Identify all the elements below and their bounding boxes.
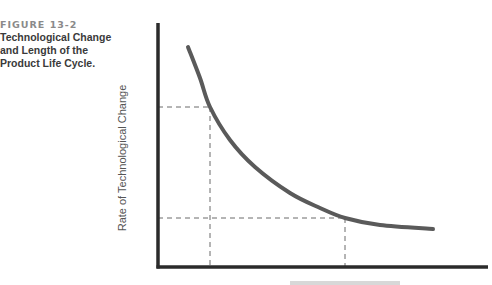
technology-curve xyxy=(188,47,433,229)
reference-lines xyxy=(158,107,345,267)
chart-plot xyxy=(0,0,492,285)
x-axis-label-clipped xyxy=(290,281,400,285)
